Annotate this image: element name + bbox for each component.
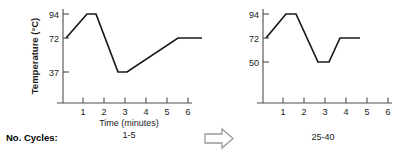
right-x-tick-label-2: 3 (322, 107, 327, 117)
right-x-ticks (283, 98, 388, 104)
right-x-tick-label-3: 4 (343, 107, 348, 117)
left-chart-data-line (66, 14, 202, 72)
left-cycles-value: 1-5 (63, 130, 195, 140)
right-x-tick-label-0: 1 (280, 107, 285, 117)
right-chart-data-line (266, 14, 360, 62)
left-x-tick-label-3: 4 (143, 107, 148, 117)
left-chart-panel: 94 72 37 1 2 3 4 5 6 Temperature (°C) (29, 9, 202, 117)
right-y-tick-label-1: 72 (249, 34, 259, 44)
right-y-tick-label-0: 94 (249, 10, 259, 20)
left-x-tick-label-5: 6 (185, 107, 190, 117)
right-arrow-outline-icon (205, 129, 233, 148)
left-y-ticks (63, 14, 69, 72)
left-x-axis-title: Time (minutes) (63, 118, 195, 128)
left-x-tick-label-2: 3 (122, 107, 127, 117)
right-chart-panel: 94 72 50 1 2 3 4 5 6 (249, 9, 392, 117)
left-x-tick-label-4: 5 (164, 107, 169, 117)
figure-canvas: 94 72 37 1 2 3 4 5 6 Temperature (°C) (0, 0, 394, 152)
left-x-tick-label-1: 2 (101, 107, 106, 117)
left-y-tick-label-1: 72 (49, 34, 59, 44)
left-y-axis-title: Temperature (°C) (29, 18, 40, 94)
right-y-tick-label-2: 50 (249, 58, 259, 68)
arrow-shape (205, 129, 233, 148)
right-x-tick-label-5: 6 (385, 107, 390, 117)
right-x-tick-label-1: 2 (301, 107, 306, 117)
left-x-ticks (83, 98, 188, 104)
right-cycles-value: 25-40 (263, 132, 383, 142)
left-x-tick-label-0: 1 (80, 107, 85, 117)
right-x-tick-label-4: 5 (364, 107, 369, 117)
left-y-tick-label-2: 37 (49, 68, 59, 78)
no-cycles-label: No. Cycles: (6, 132, 58, 143)
pcr-thermal-cycling-figure: 94 72 37 1 2 3 4 5 6 Temperature (°C) (0, 0, 394, 152)
left-y-tick-label-0: 94 (49, 10, 59, 20)
